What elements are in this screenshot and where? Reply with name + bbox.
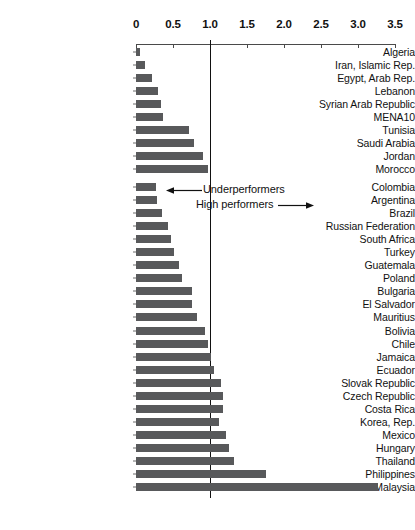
x-axis-tick-labels: 0 0.5 1.0 1.5 2.0 2.5 3.0 3.5 [0,18,415,34]
annotation-high-performers: High performers [196,198,273,210]
bar [136,261,179,269]
bar-row: Syrian Arab Republic [0,97,415,110]
bar [136,379,221,387]
bar [136,327,205,335]
bar [136,74,152,82]
bar [136,431,226,439]
bar-row: Costa Rica [0,402,415,415]
bar-row: Mexico [0,428,415,441]
bar-row: Hungary [0,441,415,454]
bar-category-label: Saudi Arabia [284,137,415,148]
bar-category-label: Syrian Arab Republic [284,98,415,109]
bar-category-label: Ecuador [284,364,415,375]
bar [136,165,208,173]
bar [136,139,194,147]
bar-category-label: Philippines [284,469,415,480]
bar-category-label: Jordan [284,150,415,161]
bar-row: Poland [0,272,415,285]
x-tick-label: 0 [133,18,139,30]
bar-chart: 0 0.5 1.0 1.5 2.0 2.5 3.0 3.5 AlgeriaIra… [0,0,415,530]
arrow-left-icon [166,186,202,195]
bar [136,113,163,121]
bar-category-label: Guatemala [284,260,415,271]
bar-row: Russian Federation [0,220,415,233]
bar [136,100,161,108]
bar [136,274,182,282]
bar-category-label: Turkey [284,247,415,258]
bar [136,366,214,374]
bar-row: Malaysia [0,481,415,494]
bar [136,183,156,191]
bar-category-label: Czech Republic [284,390,415,401]
bar [136,405,223,413]
bar-category-label: El Salvador [284,299,415,310]
bar-category-label: Costa Rica [284,403,415,414]
bar-row: Bolivia [0,324,415,337]
bar-row: Mauritius [0,311,415,324]
x-tick-label: 2.0 [276,18,291,30]
bar-row: South Africa [0,233,415,246]
bar-category-label: Egypt, Arab Rep. [284,72,415,83]
bar [136,248,174,256]
bar-row: Tunisia [0,123,415,136]
bar [136,222,168,230]
bar-row: Philippines [0,468,415,481]
bar-category-label: South Africa [284,234,415,245]
x-tick-label: 0.5 [165,18,180,30]
bar-category-label: Chile [284,338,415,349]
bar [136,287,192,295]
bar-category-label: Slovak Republic [284,377,415,388]
x-tick-label: 3.5 [387,18,402,30]
bar-row: Ecuador [0,363,415,376]
bar-row: Jamaica [0,350,415,363]
bar-category-label: Morocco [284,163,415,174]
bar-category-label: Mauritius [284,312,415,323]
bar-row: Bulgaria [0,285,415,298]
bar-category-label: Jamaica [284,351,415,362]
bar [136,300,192,308]
bar-category-label: Algeria [284,46,415,57]
x-tick-label: 1.5 [239,18,254,30]
x-tick-label: 3.0 [350,18,365,30]
bar [136,209,162,217]
bar-category-label: Lebanon [284,85,415,96]
x-tick-label: 1.0 [202,18,217,30]
bar-row: Thailand [0,454,415,467]
bar-row: Guatemala [0,259,415,272]
bar-category-label: Hungary [284,442,415,453]
bar-row: Egypt, Arab Rep. [0,71,415,84]
bar [136,353,211,361]
bar [136,48,140,56]
bar-category-label: Iran, Islamic Rep. [284,59,415,70]
bar-category-label: Russian Federation [284,221,415,232]
bar [136,470,266,478]
bar-category-label: Mexico [284,429,415,440]
bar-row: El Salvador [0,298,415,311]
bar-rows: AlgeriaIran, Islamic Rep.Egypt, Arab Rep… [0,45,415,494]
bar-row: Iran, Islamic Rep. [0,58,415,71]
bar-row: Czech Republic [0,389,415,402]
bar-category-label: MENA10 [284,111,415,122]
bar [136,152,203,160]
bar [136,392,223,400]
bar-row: Algeria [0,45,415,58]
bar [136,483,378,491]
bar-category-label: Thailand [284,455,415,466]
bar-row: Korea, Rep. [0,415,415,428]
bar-category-label: Korea, Rep. [284,416,415,427]
bar-row: Jordan [0,149,415,162]
bar-category-label: Bolivia [284,325,415,336]
x-tick-label: 2.5 [313,18,328,30]
bar-row: Lebanon [0,84,415,97]
bar [136,457,234,465]
bar-category-label: Bulgaria [284,286,415,297]
bar [136,87,158,95]
bar-row: Slovak Republic [0,376,415,389]
bar [136,235,171,243]
bar [136,126,189,134]
bar-row: MENA10 [0,110,415,123]
bar [136,444,229,452]
bar-category-label: Colombia [284,181,415,192]
bar-category-label: Tunisia [284,124,415,135]
bar-category-label: Poland [284,273,415,284]
